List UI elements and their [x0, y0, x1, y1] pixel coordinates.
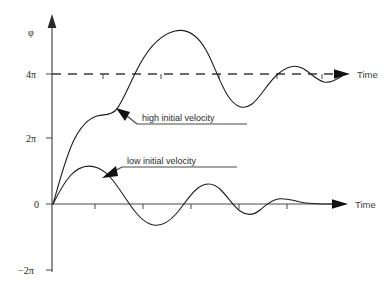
low-velocity-annotation: [102, 166, 237, 178]
pendulum-phase-figure: φ 4π 2π 0 −2π Time Time high initial vel…: [0, 0, 390, 290]
lower-axis-ticks: [95, 204, 287, 209]
high-velocity-annotation-label: high initial velocity: [142, 113, 215, 123]
lower-time-axis: [52, 199, 348, 209]
vertical-axis: [48, 14, 57, 272]
plot-canvas: φ 4π 2π 0 −2π Time Time high initial vel…: [0, 0, 390, 290]
high-velocity-arrowhead: [116, 108, 130, 121]
low-initial-velocity-curve: [53, 166, 340, 225]
y-tick-label-neg2pi: −2π: [18, 265, 34, 276]
y-tick-label-0: 0: [34, 199, 39, 210]
y-tick-label-2pi: 2π: [26, 133, 36, 144]
upper-time-axis-label: Time: [357, 69, 378, 80]
upper-time-axis: [52, 69, 350, 79]
lower-time-axis-label: Time: [355, 199, 376, 210]
upper-axis-ticks: [103, 74, 322, 79]
low-velocity-annotation-label: low initial velocity: [127, 156, 197, 166]
y-tick-label-4pi: 4π: [26, 69, 36, 80]
vertical-axis-arrowhead: [48, 14, 57, 28]
upper-time-axis-arrowhead: [334, 69, 350, 79]
high-velocity-leader-diagonal: [127, 116, 137, 124]
y-axis-label-phi: φ: [28, 27, 34, 38]
y-axis-ticks: [46, 74, 52, 270]
